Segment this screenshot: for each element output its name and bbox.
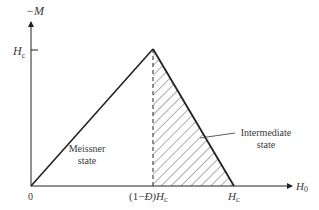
- intermediate-label-line2: state: [257, 139, 276, 150]
- magnetization-diagram: −M Hc 0 (1−Đ)Hc Hc H0 Meissner state Int…: [0, 0, 319, 210]
- meissner-label-line2: state: [78, 155, 97, 166]
- y-axis-label: −M: [26, 4, 45, 18]
- x-tick-1-label: (1−Đ)Hc: [129, 190, 168, 204]
- origin-label: 0: [28, 191, 33, 202]
- intermediate-label-line1: Intermediate: [241, 127, 292, 138]
- x-tick-2-label: Hc: [227, 190, 240, 204]
- intermediate-leader: [200, 133, 235, 138]
- y-tick-label: Hc: [12, 44, 26, 60]
- x-axis-label: H0: [295, 180, 308, 194]
- meissner-label-line1: Meissner: [69, 143, 106, 154]
